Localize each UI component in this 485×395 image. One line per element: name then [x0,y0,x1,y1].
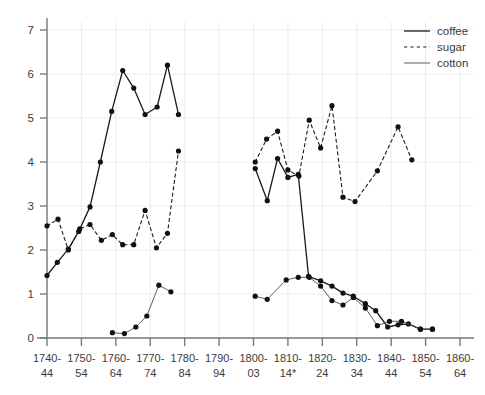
data-point-sugar [307,118,312,123]
x-axis-tick-label-bottom: 64 [454,367,466,379]
data-point-coffee [142,112,147,117]
x-axis-tick-label-top: 1780- [171,352,199,364]
data-point-cotton [351,295,356,300]
x-axis-tick-label-top: 1750- [67,352,95,364]
x-axis-tick-label-top: 1740- [33,352,61,364]
y-axis-tick-label: 1 [28,288,34,300]
data-point-coffee [165,63,170,68]
data-point-coffee [155,104,160,109]
x-axis-tick-label-top: 1760- [102,352,130,364]
data-point-coffee [385,324,390,329]
data-point-coffee [87,204,92,209]
data-point-cotton [284,277,289,282]
data-point-sugar [395,124,400,129]
x-axis-labels: 1740-441750-541760-641770-741780-841790-… [33,352,474,379]
data-point-cotton [122,331,127,336]
data-point-coffee [44,273,49,278]
data-point-cotton [156,283,161,288]
y-axis-tick-label: 0 [28,332,34,344]
x-axis-tick-label-top: 1840- [377,352,405,364]
line-chart: 012345671740-441750-541760-641770-741780… [0,0,485,395]
y-axis-tick-label: 6 [28,68,34,80]
x-axis-tick-label-bottom: 54 [75,367,87,379]
data-point-coffee [373,308,378,313]
data-point-cotton [307,275,312,280]
data-point-sugar [176,148,181,153]
data-point-cotton [168,289,173,294]
data-point-sugar [66,247,71,252]
data-point-cotton [265,297,270,302]
data-point-sugar [44,223,49,228]
data-point-coffee [329,283,334,288]
data-point-cotton [430,327,435,332]
data-point-cotton [296,275,301,280]
x-axis-tick-label-top: 1770- [136,352,164,364]
x-axis-tick-label-top: 1810- [274,352,302,364]
gridlines [47,22,474,338]
data-point-cotton [133,324,138,329]
data-point-sugar [409,157,414,162]
data-point-coffee [176,112,181,117]
data-point-coffee [98,159,103,164]
data-point-sugar [352,199,357,204]
data-point-coffee [120,68,125,73]
x-axis-tick-label-bottom: 74 [144,367,156,379]
x-axis-tick-label-bottom: 24 [316,367,328,379]
data-point-sugar [99,238,104,243]
data-point-cotton [329,298,334,303]
data-point-cotton [318,283,323,288]
data-point-coffee [55,260,60,265]
data-point-sugar [131,242,136,247]
legend: coffeesugarcotton [404,25,468,69]
legend-label-sugar: sugar [437,41,466,53]
y-axis-tick-label: 5 [28,112,34,124]
y-axis-tick-label: 2 [28,244,34,256]
chart-canvas: 012345671740-441750-541760-641770-741780… [0,0,485,395]
data-point-sugar [275,129,280,134]
data-point-sugar [264,137,269,142]
data-point-cotton [340,302,345,307]
data-point-coffee [265,198,270,203]
data-point-cotton [375,323,380,328]
data-point-coffee [275,156,280,161]
data-point-coffee [285,175,290,180]
data-point-sugar [253,159,258,164]
x-axis-tick-label-bottom: 64 [110,367,122,379]
series-line-sugar [255,106,412,202]
x-axis-tick-label-top: 1850- [412,352,440,364]
series-coffee [44,63,435,332]
y-axis-tick-label: 4 [28,156,35,168]
x-axis-tick-label-bottom: 34 [351,367,363,379]
data-point-coffee [109,109,114,114]
data-point-cotton [144,313,149,318]
data-point-sugar [165,231,170,236]
legend-label-cotton: cotton [437,57,468,69]
data-point-sugar [318,145,323,150]
data-point-coffee [253,166,258,171]
series-line-cotton [112,285,171,333]
data-point-cotton [399,319,404,324]
data-point-coffee [131,85,136,90]
data-point-sugar [77,226,82,231]
x-axis-tick-label-top: 1790- [205,352,233,364]
x-axis-tick-label-bottom: 94 [213,367,225,379]
data-point-sugar [110,232,115,237]
data-point-cotton [387,319,392,324]
y-axis-labels: 01234567 [28,24,35,344]
legend-label-coffee: coffee [437,25,468,37]
data-point-cotton [110,330,115,335]
x-axis-tick-label-top: 1820- [308,352,336,364]
x-axis-tick-label-top: 1830- [343,352,371,364]
x-axis-tick-label-bottom: 44 [385,367,397,379]
x-axis-tick-label-bottom: 54 [419,367,431,379]
data-point-cotton [253,294,258,299]
data-point-sugar [142,208,147,213]
series-sugar [44,103,414,253]
data-point-sugar [296,173,301,178]
data-point-coffee [340,291,345,296]
x-axis-tick-label-bottom: 44 [41,367,53,379]
x-axis-tick-label-top: 1800- [239,352,267,364]
data-point-coffee [318,278,323,283]
x-axis-tick-label-top: 1860- [446,352,474,364]
data-point-sugar [120,242,125,247]
